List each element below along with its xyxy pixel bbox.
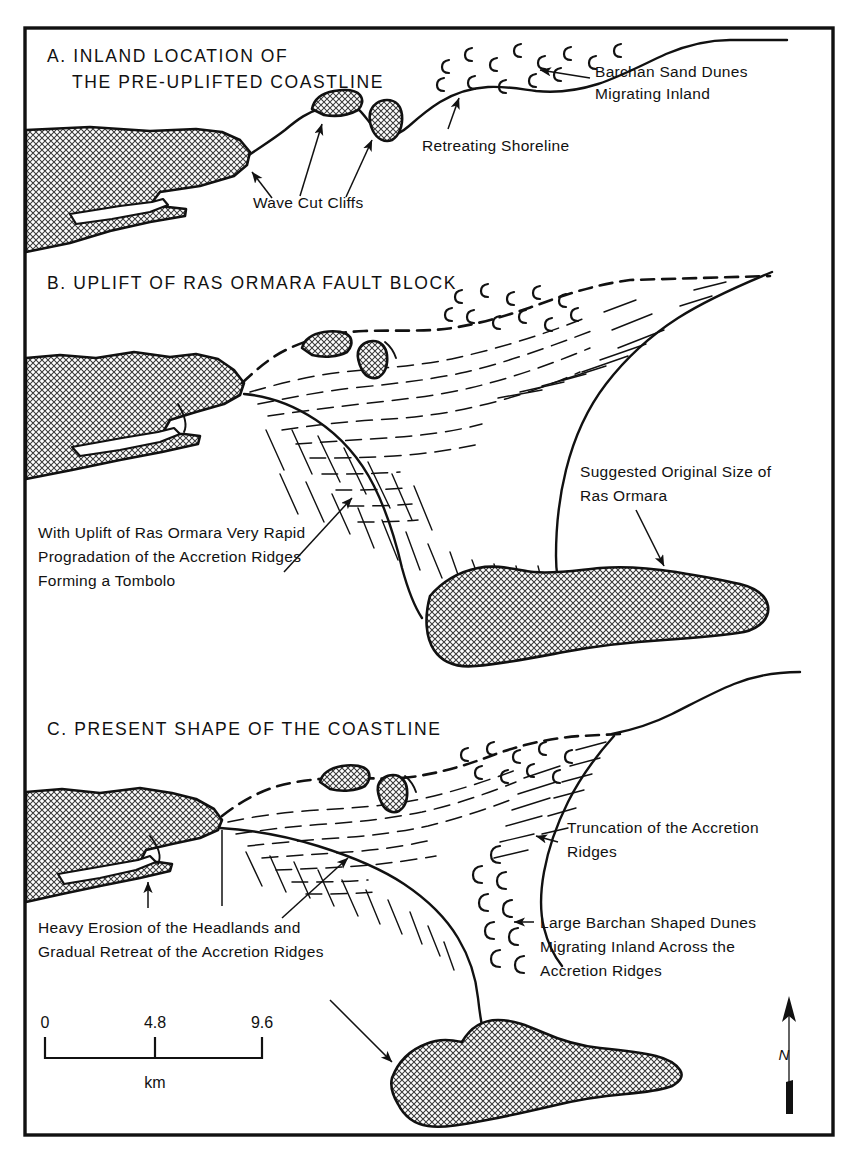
north-arrow-label: N (779, 1046, 790, 1063)
panel-c-ras-ormara-island (391, 1020, 681, 1127)
figure-page: A. INLAND LOCATION OF THE PRE-UPLIFTED C… (0, 0, 865, 1173)
panel-a-cliff-leader-2 (346, 140, 372, 197)
panel-b-title: B. UPLIFT OF RAS ORMARA FAULT BLOCK (47, 273, 457, 293)
panel-b-tombolo-west-edge (244, 394, 422, 618)
panel-c-label-barchan-line1: Large Barchan Shaped Dunes (540, 914, 756, 931)
panel-a-title-line1: A. INLAND LOCATION OF (47, 46, 288, 66)
panel-a-label-barchan-line1: Barchan Sand Dunes (595, 63, 748, 80)
panel-c-cliff-knob-1 (320, 765, 369, 790)
panel-b-ras-ormara-island (427, 567, 769, 667)
panel-a: A. INLAND LOCATION OF THE PRE-UPLIFTED C… (26, 40, 787, 252)
panel-b-barchan-dune-field (445, 284, 578, 331)
panel-b-original-size-leader (636, 510, 664, 566)
panel-c-truncation-leader (536, 836, 558, 842)
panel-b-accretion-ridges (250, 282, 726, 598)
panel-c-dashed-ridge-crest (222, 734, 620, 816)
panel-b-label-progradation-line2: Progradation of the Accretion Ridges (38, 548, 301, 565)
panel-b: B. UPLIFT OF RAS ORMARA FAULT BLOCK (26, 272, 772, 666)
panel-b-headland (26, 352, 244, 479)
panel-b-label-original-size-line1: Suggested Original Size of (580, 463, 772, 480)
panel-c-label-erosion-line2: Gradual Retreat of the Accretion Ridges (38, 943, 324, 960)
panel-a-cliff-knob-1 (312, 90, 362, 116)
panel-b-label-progradation-line3: Forming a Tombolo (38, 572, 176, 589)
scale-unit-label: km (144, 1074, 165, 1091)
panel-a-label-retreating-shoreline: Retreating Shoreline (422, 137, 569, 154)
panel-a-label-wave-cut-cliffs: Wave Cut Cliffs (253, 194, 363, 211)
panel-a-cliff-knob-2 (370, 100, 403, 141)
panel-a-cliff-leader-1 (300, 124, 322, 196)
panel-c-ridge-retreat-leader (282, 858, 348, 918)
panel-a-dune-leader (540, 70, 590, 78)
panel-c-label-truncation-line2: Ridges (567, 843, 617, 860)
panel-a-headland (26, 127, 250, 252)
panel-c-eastern-shoreline (612, 672, 800, 734)
panel-c-title: C. PRESENT SHAPE OF THE COASTLINE (47, 719, 441, 739)
coastline-evolution-figure: A. INLAND LOCATION OF THE PRE-UPLIFTED C… (0, 0, 865, 1173)
panel-c-island-leader (330, 1000, 392, 1062)
scale-bar: 0 4.8 9.6 km (41, 1014, 274, 1091)
panel-b-cliff-knob-1 (302, 331, 351, 356)
panel-b-tombolo-east-edge (556, 272, 772, 594)
scale-tick-label-0: 0 (41, 1014, 50, 1031)
panel-a-shoreline-leader (448, 98, 459, 129)
panel-c-cliff-knob-2 (378, 775, 407, 812)
panel-c-label-truncation-line1: Truncation of the Accretion (567, 819, 759, 836)
panel-c-label-barchan-line3: Accretion Ridges (540, 962, 662, 979)
scale-tick-label-2: 9.6 (251, 1014, 273, 1031)
panel-c-label-barchan-line2: Migrating Inland Across the (540, 938, 735, 955)
north-arrow-tail (786, 1080, 793, 1114)
scale-bar-line (45, 1038, 262, 1058)
panel-c-label-erosion-line1: Heavy Erosion of the Headlands and (38, 919, 301, 936)
panel-b-cliff-knob-2 (358, 341, 387, 378)
panel-a-title-line2: THE PRE-UPLIFTED COASTLINE (72, 72, 384, 92)
panel-c-barchan-dune-chain (473, 846, 524, 973)
panel-b-label-progradation-line1: With Uplift of Ras Ormara Very Rapid (38, 524, 306, 541)
panel-b-label-original-size-line2: Ras Ormara (580, 487, 667, 504)
panel-a-label-barchan-line2: Migrating Inland (595, 85, 710, 102)
panel-c-headland (26, 788, 222, 902)
scale-tick-label-1: 4.8 (144, 1014, 166, 1031)
north-arrow: N (779, 996, 796, 1114)
